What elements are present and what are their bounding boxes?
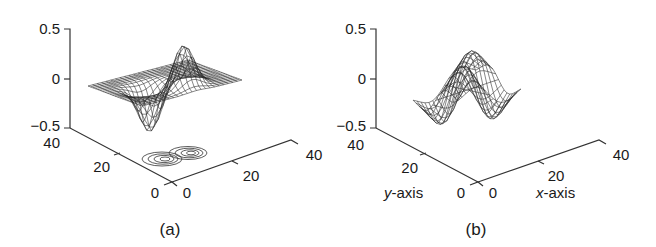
panel-caption-b: (b) bbox=[466, 220, 487, 239]
x-axis-label: x-axis bbox=[535, 184, 575, 201]
origin-ticks-a bbox=[164, 182, 177, 186]
z-tick-label: −0.5 bbox=[336, 117, 366, 134]
x-axis-label-rest: -axis bbox=[544, 184, 576, 201]
y-axis-b bbox=[370, 128, 478, 182]
x-tick-20-a bbox=[232, 161, 238, 164]
y-axis-label-rest: -axis bbox=[392, 184, 424, 201]
y-tick-label: 40 bbox=[43, 134, 60, 151]
y-axis-label: y-axis bbox=[383, 184, 423, 201]
z-tick-label: 0.5 bbox=[39, 20, 60, 37]
surface-mesh-b bbox=[413, 51, 521, 125]
y-tick-label: 40 bbox=[347, 136, 364, 153]
x-tick-label: 40 bbox=[306, 146, 323, 163]
y-axis-a bbox=[64, 128, 172, 182]
contour-lines-a bbox=[142, 147, 207, 167]
y-tick-label: 0 bbox=[151, 184, 159, 201]
x-tick-label: 20 bbox=[548, 167, 565, 184]
panel-caption-a: (a) bbox=[160, 220, 181, 239]
x-tick-label: 40 bbox=[613, 146, 630, 163]
y-tick-label: 20 bbox=[401, 159, 418, 176]
x-tick-label: 20 bbox=[243, 167, 260, 184]
x-tick-20-b bbox=[538, 161, 544, 164]
x-tick-label: 0 bbox=[489, 184, 497, 201]
origin-ticks-b bbox=[470, 182, 483, 186]
surface-mesh-a bbox=[88, 46, 242, 131]
figure: 0.5 0 −0.5 40 20 0 0 20 40 (a) bbox=[0, 0, 656, 247]
x-tick-label: 0 bbox=[183, 184, 191, 201]
z-tick-label: 0 bbox=[358, 70, 366, 87]
z-tick-label: 0.5 bbox=[345, 20, 366, 37]
panel-a: 0.5 0 −0.5 40 20 0 0 20 40 (a) bbox=[30, 20, 322, 239]
x-axis-b bbox=[478, 140, 606, 182]
y-tick-label: 0 bbox=[457, 184, 465, 201]
y-tick-label: 20 bbox=[93, 158, 110, 175]
panel-b: 0.5 0 −0.5 40 20 0 0 20 40 y-axis x-axis… bbox=[336, 20, 629, 239]
z-tick-label: −0.5 bbox=[30, 117, 60, 134]
z-tick-label: 0 bbox=[52, 70, 60, 87]
